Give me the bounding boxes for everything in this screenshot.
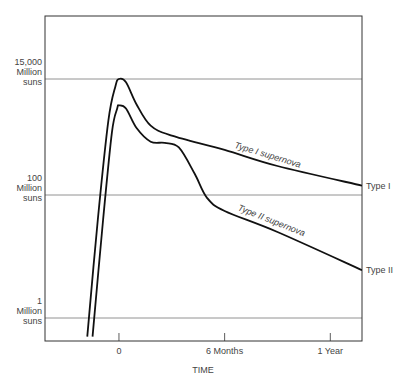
plot-frame — [45, 16, 362, 341]
series-curve-label: Type I supernova — [233, 140, 302, 170]
supernova-light-curve-chart: 15,000Millionsuns100Millionsuns1Millions… — [0, 0, 404, 390]
x-axis-title: TIME — [192, 365, 214, 375]
y-tick-label: 100Millionsuns — [16, 173, 42, 203]
y-tick-label: 1Millionsuns — [16, 296, 42, 326]
x-axis-ticks: 06 Months1 Year — [116, 333, 343, 356]
series-line-type-ii — [93, 105, 362, 336]
x-tick-label: 0 — [116, 346, 121, 356]
x-tick-label: 1 Year — [318, 346, 344, 356]
series-end-label: Type I — [366, 181, 391, 191]
series-line-type-i — [87, 79, 362, 337]
y-axis-labels: 15,000Millionsuns100Millionsuns1Millions… — [14, 57, 42, 326]
series-end-label: Type II — [366, 265, 393, 275]
x-tick-label: 6 Months — [206, 346, 244, 356]
y-tick-label: 15,000Millionsuns — [14, 57, 42, 87]
series-lines — [87, 79, 362, 337]
